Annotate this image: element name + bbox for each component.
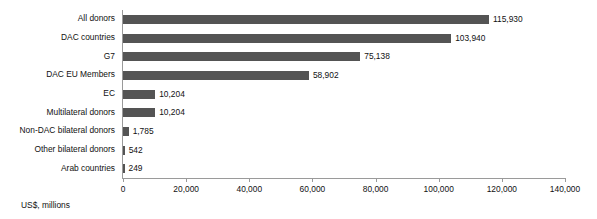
category-axis-labels: All donorsDAC countriesG7DAC EU MembersE… — [0, 0, 119, 178]
x-axis-line — [122, 178, 566, 179]
x-tick-mark — [249, 179, 250, 182]
bar-row: 249 — [123, 164, 565, 173]
category-label: DAC countries — [0, 33, 115, 42]
bar-value-label: 103,940 — [455, 33, 485, 43]
x-tick-mark — [123, 179, 124, 182]
x-tick-label: 100,000 — [424, 184, 454, 194]
y-axis-line — [122, 10, 123, 178]
bar-value-label: 58,902 — [313, 70, 339, 80]
bar-row: 58,902 — [123, 71, 565, 80]
category-label: All donors — [0, 14, 115, 23]
bar — [123, 34, 451, 43]
bar-row: 10,204 — [123, 108, 565, 117]
x-tick-mark — [186, 179, 187, 182]
category-label: Non-DAC bilateral donors — [0, 126, 115, 135]
category-label: Other bilateral donors — [0, 145, 115, 154]
bar — [123, 108, 155, 117]
bar — [123, 90, 155, 99]
bar-value-label: 10,204 — [159, 89, 185, 99]
bar-value-label: 115,930 — [493, 14, 523, 24]
bar-value-label: 10,204 — [159, 107, 185, 117]
bar-value-label: 1,785 — [133, 126, 154, 136]
x-tick-mark — [312, 179, 313, 182]
x-tick-mark — [565, 179, 566, 182]
bar-value-label: 75,138 — [364, 51, 390, 61]
plot-area: 115,930103,94075,13858,90210,20410,2041,… — [123, 10, 565, 178]
category-label: G7 — [0, 52, 115, 61]
bar — [123, 71, 309, 80]
bar — [123, 52, 360, 61]
x-tick-mark — [376, 179, 377, 182]
bar — [123, 15, 489, 24]
bar — [123, 127, 129, 136]
x-tick-label: 40,000 — [236, 184, 262, 194]
x-tick-label: 80,000 — [363, 184, 389, 194]
category-label: EC — [0, 89, 115, 98]
x-tick-label: 0 — [121, 184, 126, 194]
bar-row: 1,785 — [123, 127, 565, 136]
bar-chart: All donorsDAC countriesG7DAC EU MembersE… — [0, 0, 597, 219]
x-axis-title-text: US$, millions — [21, 200, 70, 210]
x-tick-label: 140,000 — [550, 184, 580, 194]
bar — [123, 164, 125, 173]
bar-value-label: 542 — [129, 145, 143, 155]
x-tick-mark — [502, 179, 503, 182]
bar-value-label: 249 — [129, 163, 143, 173]
bar — [123, 146, 125, 155]
x-axis-title: US$, millions — [0, 200, 597, 210]
bar-row: 115,930 — [123, 15, 565, 24]
category-label: Multilateral donors — [0, 108, 115, 117]
x-tick-mark — [439, 179, 440, 182]
x-tick-label: 120,000 — [487, 184, 517, 194]
category-label: Arab countries — [0, 164, 115, 173]
x-tick-label: 60,000 — [300, 184, 326, 194]
bar-row: 103,940 — [123, 34, 565, 43]
bar-row: 10,204 — [123, 90, 565, 99]
bar-row: 75,138 — [123, 52, 565, 61]
category-label: DAC EU Members — [0, 70, 115, 79]
bar-row: 542 — [123, 146, 565, 155]
x-tick-label: 20,000 — [173, 184, 199, 194]
